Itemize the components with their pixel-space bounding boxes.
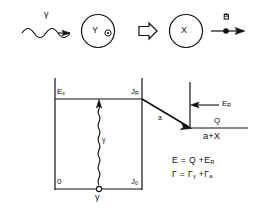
excited-state-energy-label: Ex <box>57 88 65 97</box>
residual-nucleus-label: X <box>181 26 187 35</box>
physics-level-diagram-figure: γ Y X a Ex JR 0 J0 γ γ a ER Q a+X E = Q … <box>0 0 257 208</box>
excited-state-spin-label: JR <box>131 88 139 97</box>
incoming-gamma-label: γ <box>44 10 49 19</box>
exit-channel-label: a+X <box>203 131 220 141</box>
q-value-label: Q <box>214 117 220 125</box>
gamma-transition-label: γ <box>102 136 106 143</box>
alpha-branch-label: a <box>158 114 162 121</box>
gamma-emitter-label: γ <box>95 193 100 202</box>
resonance-energy-label: ER <box>222 100 231 109</box>
figure-text-layer: γ Y X a Ex JR 0 J0 γ γ a ER Q a+X E = Q … <box>0 0 257 208</box>
ground-state-spin-label: J0 <box>131 178 138 187</box>
ground-state-energy-label: 0 <box>57 178 61 186</box>
outgoing-particle-label: a <box>224 11 228 18</box>
width-balance-equation: Γ = Γγ +Γa <box>172 170 212 180</box>
compound-nucleus-label: Y <box>92 26 98 35</box>
energy-balance-equation: E = Q +ER <box>172 156 214 166</box>
